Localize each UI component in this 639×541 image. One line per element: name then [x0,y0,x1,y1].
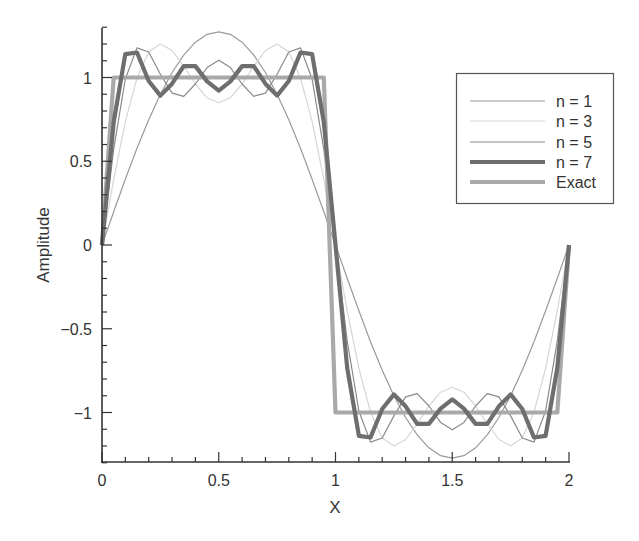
x-ticks: 00.511.52 [98,452,574,489]
y-tick-label: 0.5 [70,153,92,170]
y-tick-label: −0.5 [60,321,92,338]
x-tick-label: 0.5 [208,472,230,489]
x-tick-label: 2 [565,472,574,489]
legend-label: n = 1 [556,93,592,110]
y-axis-title: Amplitude [34,207,53,283]
x-tick-label: 0 [98,472,107,489]
legend-label: n = 3 [556,113,592,130]
chart: 00.511.52 −1−0.500.51 X Amplitude n = 1n… [0,0,639,541]
legend-label: Exact [556,174,597,191]
y-tick-label: 1 [83,70,92,87]
x-tick-label: 1 [331,472,340,489]
x-axis-title: X [329,498,340,517]
y-ticks: −1−0.500.51 [60,27,112,463]
legend: n = 1n = 3n = 5n = 7Exact [457,74,614,204]
y-tick-label: −1 [74,405,92,422]
x-tick-label: 1.5 [441,472,463,489]
legend-label: n = 7 [556,154,592,171]
legend-label: n = 5 [556,134,592,151]
y-tick-label: 0 [83,237,92,254]
